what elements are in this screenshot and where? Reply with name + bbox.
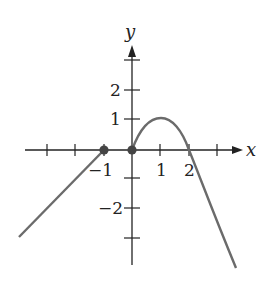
y-tick-label-neg2: −2 <box>98 198 123 218</box>
y-tick-label-2: 2 <box>110 80 121 100</box>
y-axis-label: y <box>124 21 136 42</box>
point-neg1-0 <box>99 145 108 154</box>
y-axis-arrow-icon <box>128 45 136 57</box>
x-tick-label-2: 2 <box>184 160 195 180</box>
y-tick-label-1: 1 <box>110 109 121 129</box>
x-axis-label: x <box>246 139 256 160</box>
point-origin <box>127 145 136 154</box>
right-curve <box>132 118 236 268</box>
x-axis-arrow-icon <box>232 146 243 154</box>
x-tick-label-neg1: −1 <box>88 160 113 180</box>
x-tick-label-1: 1 <box>156 160 167 180</box>
graph: y x −1 1 2 2 1 −2 <box>0 0 267 282</box>
